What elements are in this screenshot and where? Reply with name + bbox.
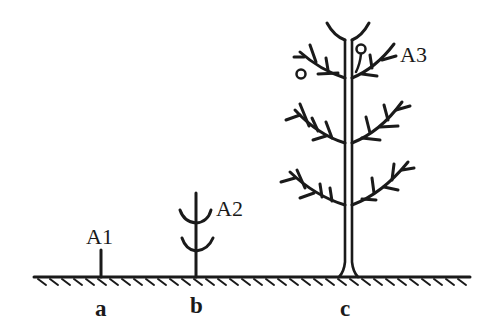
ground-line <box>34 277 470 285</box>
plant-a2 <box>180 193 213 277</box>
label-a1: A1 <box>86 226 113 248</box>
label-a3: A3 <box>400 44 427 66</box>
plant-a3 <box>281 23 414 277</box>
label-a2: A2 <box>216 198 243 220</box>
diagram-canvas: A1 A2 A3 a b c <box>0 0 495 335</box>
position-label-b: b <box>190 294 203 317</box>
position-label-a: a <box>95 297 107 320</box>
position-label-c: c <box>340 297 350 320</box>
